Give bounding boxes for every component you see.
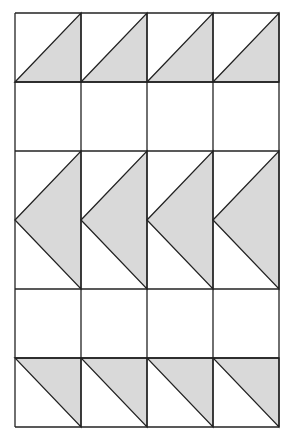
arrow-triangles-shape	[15, 151, 81, 289]
bottom-triangles-shape	[213, 358, 279, 427]
arrow-triangles-shape	[81, 151, 147, 289]
bottom-triangles-shape	[147, 358, 213, 427]
bottom-triangles-shape	[81, 358, 147, 427]
arrow-triangles-shape	[213, 151, 279, 289]
top-triangles-shape	[15, 13, 81, 82]
arrow-triangles-shape	[147, 151, 213, 289]
top-triangles-shape	[147, 13, 213, 82]
top-triangles-shape	[81, 13, 147, 82]
top-triangles-shape	[213, 13, 279, 82]
quilt-diagram	[0, 0, 293, 437]
bottom-triangles-shape	[15, 358, 81, 427]
